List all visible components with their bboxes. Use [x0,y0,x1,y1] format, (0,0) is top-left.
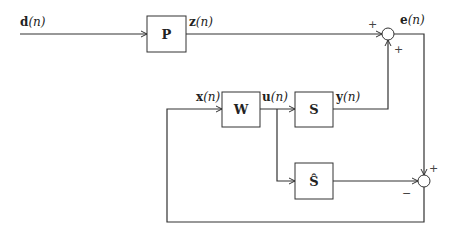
signal-x-label: x(n) [196,90,221,104]
block-s-label: S [309,102,318,117]
sign-bottom-left: − [402,187,411,200]
signal-d-label: d(n) [20,15,46,29]
signal-y-label: y(n) [335,90,360,104]
block-s-hat-label: Ŝ [309,173,318,189]
signal-u-label: u(n) [262,90,288,104]
block-p-label: P [162,27,172,42]
sign-top-left: + [368,18,377,31]
block-w-label: W [233,102,249,117]
signal-z-label: z(n) [189,15,213,29]
sum-junction-top [382,28,394,40]
signal-e-label: e(n) [400,13,425,27]
sum-junction-bottom [418,175,430,187]
block-diagram: P W S Ŝ d(n) z(n) e(n) x(n) u(n) y(n) + … [0,0,456,234]
sign-bottom-top: + [429,162,438,175]
sign-top-bottom: + [394,43,403,56]
wire-u-to-shat [277,109,295,181]
